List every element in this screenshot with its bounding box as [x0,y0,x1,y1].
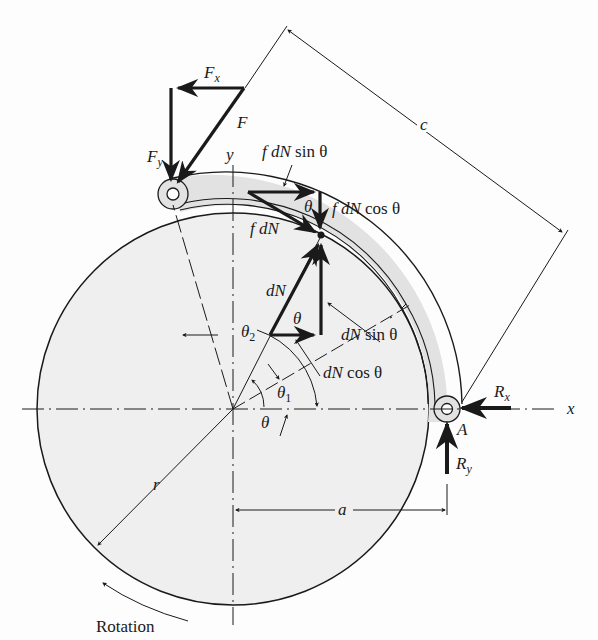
label-Fy: Fy [146,147,163,169]
label-y-axis: y [224,145,234,164]
label-dN-sin-theta: dN sin θ [341,325,397,344]
label-f-dN-sin-theta: f dN sin θ [262,142,327,161]
label-a: a [338,500,347,519]
label-A: A [456,420,468,439]
label-dN-cos-theta: dN cos θ [323,363,382,382]
label-theta: θ [261,413,269,432]
label-theta-mid: θ [293,309,301,328]
label-c: c [420,115,428,134]
label-f-dN-cos-theta: f dN cos θ [332,199,400,218]
upper-pin [158,179,188,209]
contact-point [318,232,325,239]
label-Rx: Rx [493,382,510,404]
label-rotation: Rotation [96,617,155,636]
label-dN: dN [266,281,288,300]
label-f-dN: f dN [250,219,280,238]
label-Fx: Fx [203,63,220,85]
brake-shoe-diagram: Fx Fy F y x c f dN sin θ f dN cos θ f dN… [0,0,598,640]
label-theta-top: θ [304,197,312,216]
label-Ry: Ry [455,454,472,476]
label-r: r [153,475,160,494]
label-F: F [236,113,248,132]
label-x-axis: x [566,399,575,418]
